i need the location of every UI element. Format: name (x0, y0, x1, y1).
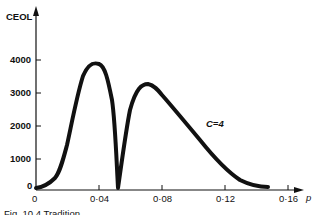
x-tick-label: 0 (32, 193, 37, 204)
y-tick-label: 1000 (10, 153, 31, 164)
x-axis-label: p (305, 192, 311, 203)
x-tick-label: 0·16 (279, 193, 298, 204)
x-tick-label: 0·12 (216, 193, 235, 204)
y-axis-arrow-icon (33, 6, 39, 16)
x-tick-label: 0·08 (153, 193, 172, 204)
figure-caption: Fig. 10.4 Tradition... (4, 208, 88, 215)
y-ticks (36, 60, 41, 159)
x-tick-label: 0·04 (90, 193, 109, 204)
y-tick-label: 4000 (10, 54, 31, 65)
y-tick-label: 3000 (10, 87, 31, 98)
chart: CEOL 4000 3000 2000 1000 0 0 0·04 0·08 0… (0, 0, 321, 215)
y-axis-label: CEOL (6, 11, 33, 22)
curve-c4 (36, 63, 268, 188)
y-tick-label: 2000 (10, 120, 31, 131)
curve-annotation: C=4 (206, 118, 224, 129)
y-tick-label: 0 (27, 180, 32, 191)
